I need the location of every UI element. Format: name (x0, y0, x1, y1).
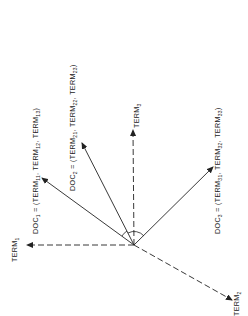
term1-label: TERM1 (10, 237, 20, 262)
doc2-label: DOC2 = (TERM21, TERM22, TERM23) (68, 64, 78, 191)
vector-space-diagram: TERM1 TERM2 TERM3 DOC1 = (TERM11, TERM12… (0, 0, 248, 316)
doc1-label: DOC1 = (TERM11, TERM12, TERM13) (31, 108, 41, 234)
angle-mark-doc1-doc2 (122, 231, 127, 236)
doc3-vector (134, 167, 213, 245)
term2-axis (134, 245, 232, 300)
doc2-vector (82, 143, 134, 245)
term3-axis (133, 130, 134, 245)
angle-mark-doc2-doc3 (128, 231, 144, 236)
term3-label: TERM3 (132, 103, 142, 128)
doc3-label: DOC3 = (TERM31, TERM32, TERM33) (213, 107, 223, 234)
doc1-vector (42, 178, 134, 245)
term2-label: TERM2 (232, 291, 242, 316)
